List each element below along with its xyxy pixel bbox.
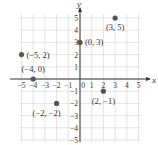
y-tick-label: 1 (74, 63, 78, 72)
x-tick-label: 3 (113, 81, 117, 90)
x-axis-arrow-icon (146, 77, 151, 81)
point-label: (−5, 2) (27, 50, 50, 60)
y-tick-label: −2 (70, 99, 78, 108)
coordinate-plane: x y −5−4−3−2−1012345 −5−4−3−2−112345 (3,… (0, 0, 158, 145)
y-tick-label: −3 (70, 112, 78, 121)
x-tick-label: 0 (81, 81, 85, 90)
y-tick-label: 4 (74, 26, 78, 35)
data-point (31, 76, 36, 81)
data-point (77, 40, 82, 45)
data-point (54, 101, 59, 106)
y-tick-label: −1 (70, 87, 78, 96)
x-tick-label: −4 (29, 81, 37, 90)
point-label: (−2, −2) (33, 108, 61, 118)
x-tick-label: 5 (137, 81, 141, 90)
data-point (19, 52, 24, 57)
x-tick-label: 4 (125, 81, 129, 90)
point-label: (0, 3) (85, 37, 104, 47)
data-point (101, 89, 106, 94)
point-label: (2, −1) (92, 96, 115, 106)
y-tick-label: 2 (74, 51, 78, 60)
x-axis-label: x (151, 75, 156, 85)
x-tick-label: −5 (18, 81, 26, 90)
y-tick-label: −5 (70, 136, 78, 145)
y-tick-label: 5 (74, 14, 78, 23)
x-tick-label: −3 (41, 81, 49, 90)
x-tick-label: 1 (90, 81, 94, 90)
point-label: (−4, 0) (22, 64, 45, 74)
data-point (113, 15, 118, 20)
x-tick-label: −2 (53, 81, 61, 90)
x-tick-labels: −5−4−3−2−1012345 (18, 81, 141, 90)
y-axis-label: y (76, 0, 81, 9)
y-tick-label: −4 (70, 124, 78, 133)
point-label: (3, 5) (106, 22, 125, 32)
